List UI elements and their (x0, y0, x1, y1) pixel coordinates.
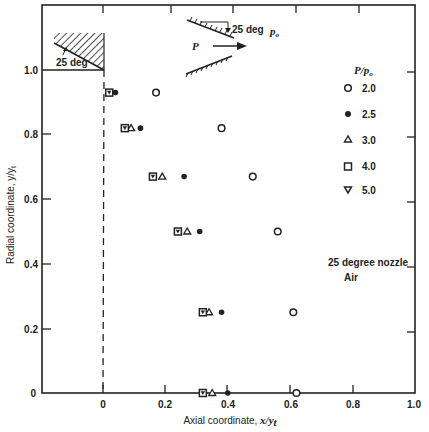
inset-angle-label: 25 deg (56, 57, 88, 68)
y-tick-1.0: 1.0 (24, 65, 38, 76)
y-axis-ticks (42, 70, 415, 332)
inverted-triangle-icon (345, 187, 352, 193)
data-point-filled-circle (138, 125, 144, 131)
nozzle-flow-chart: 0 0.2 0.4 0.6 0.8 1.0 0 0.2 0.4 0.6 0.8 … (0, 0, 429, 432)
y-tick-0.4: 0.4 (24, 259, 38, 270)
note-line-2: Air (344, 272, 358, 283)
legend: P/po 2.0 2.5 3.0 4.0 5.0 (345, 64, 377, 196)
x-tick-1.0: 1.0 (407, 399, 421, 410)
schematic-angle-label: 25 deg (232, 24, 264, 35)
data-point-open-circle (293, 390, 300, 397)
data-point-open-triangle (184, 228, 191, 234)
data-point-open-circle (153, 89, 160, 96)
data-point-filled-circle (219, 309, 225, 315)
data-point-open-circle (218, 125, 225, 132)
y-tick-0: 0 (30, 388, 36, 399)
data-point-filled-circle (225, 390, 231, 396)
y-tick-labels: 0 0.2 0.4 0.6 0.8 1.0 (24, 65, 38, 399)
data-point-open-circle (274, 228, 281, 235)
data-points (106, 89, 300, 396)
x-axis-ticks (103, 5, 359, 393)
schematic-po-label: po (269, 25, 280, 39)
legend-item-4.0: 4.0 (345, 161, 377, 172)
x-tick-0.4: 0.4 (221, 399, 235, 410)
schematic-P-label: P (192, 40, 199, 52)
data-point-open-triangle (209, 390, 216, 396)
note-line-1: 25 degree nozzle (328, 257, 408, 268)
data-point-open-triangle (159, 173, 166, 179)
wall-angle-inset: 25 deg (54, 33, 104, 70)
x-tick-0: 0 (100, 399, 106, 410)
x-tick-0.6: 0.6 (284, 399, 298, 410)
y-tick-0.8: 0.8 (24, 129, 38, 140)
filled-circle-icon (345, 111, 351, 117)
legend-item-2.5: 2.5 (345, 109, 376, 120)
data-point-filled-circle (113, 90, 119, 96)
x-tick-0.8: 0.8 (346, 399, 360, 410)
throat-dashed-line (103, 70, 104, 393)
open-triangle-icon (345, 136, 352, 142)
x-tick-labels: 0 0.2 0.4 0.6 0.8 1.0 (100, 399, 421, 410)
nozzle-note: 25 degree nozzle Air (328, 257, 408, 283)
y-tick-0.2: 0.2 (24, 324, 38, 335)
data-point-filled-circle (181, 174, 187, 180)
legend-title: P/po (354, 64, 373, 78)
x-tick-0.2: 0.2 (158, 399, 172, 410)
legend-label: 4.0 (362, 161, 376, 172)
data-point-open-circle (249, 173, 256, 180)
open-circle-icon (345, 85, 352, 92)
open-square-icon (345, 163, 352, 170)
legend-item-5.0: 5.0 (345, 185, 377, 196)
legend-label: 5.0 (362, 185, 376, 196)
legend-item-2.0: 2.0 (345, 83, 377, 94)
data-point-open-circle (290, 309, 297, 316)
legend-label: 2.5 (362, 109, 376, 120)
y-tick-0.6: 0.6 (24, 194, 38, 205)
legend-label: 2.0 (362, 83, 376, 94)
data-point-filled-circle (197, 229, 203, 235)
y-axis-title: Radial coordinate, y/yt (5, 166, 17, 264)
legend-item-3.0: 3.0 (345, 135, 377, 146)
nozzle-schematic: 25 deg po P (186, 17, 280, 77)
legend-label: 3.0 (362, 135, 376, 146)
x-axis-title: Axial coordinate, x/yt (183, 414, 277, 428)
